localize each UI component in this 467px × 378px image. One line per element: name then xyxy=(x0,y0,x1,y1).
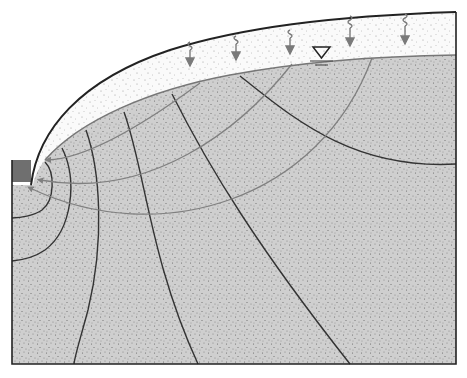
outlet-block xyxy=(12,160,31,182)
flow-net-diagram xyxy=(0,0,467,378)
